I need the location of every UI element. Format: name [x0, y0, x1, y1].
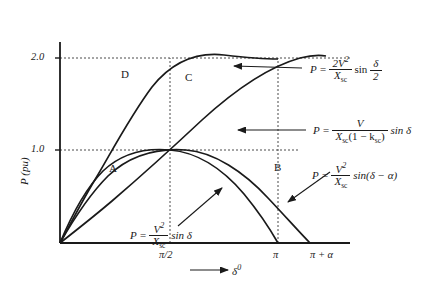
x-tick-label-pi-alpha: π + α — [310, 249, 333, 260]
y-tick-label-1: 1.0 — [31, 143, 44, 154]
formula-d-denominator: Xsc — [329, 70, 351, 84]
formula-a-fraction: V2 Xsc — [149, 222, 168, 250]
formula-a-num-sup: 2 — [160, 221, 164, 230]
chart-figure: P (pu) 2.0 1.0 π/2 π π + α δ0 A B C D P … — [0, 0, 430, 292]
formula-c-fraction: V Xsc(1 − ksc) — [332, 118, 387, 145]
formula-a-denominator: Xsc — [149, 236, 168, 250]
formula-c-denominator: Xsc(1 − ksc) — [332, 131, 387, 145]
formula-curve-c: P = V Xsc(1 − ksc) sin δ — [313, 118, 411, 145]
formula-curve-b: P = V2 Xsc sin(δ − α) — [312, 162, 397, 190]
formula-c-eq: = — [322, 124, 329, 136]
formula-a-tail: sin δ — [171, 229, 192, 241]
curve-c — [60, 55, 326, 243]
y-tick-label-2: 2.0 — [31, 51, 44, 62]
formula-c-den-rest: (1 − k — [348, 130, 374, 142]
formula-a-lhs: P — [130, 229, 137, 241]
formula-c-lhs: P — [313, 124, 320, 136]
grid-guides — [60, 58, 350, 243]
formula-d-eq: = — [319, 63, 326, 75]
formula-d-arg-fraction: δ 2 — [370, 58, 382, 82]
formula-b-denominator: Xsc — [331, 176, 350, 190]
formula-b-num-sup: 2 — [342, 161, 346, 170]
curve-d — [60, 54, 278, 243]
formula-b-lhs: P — [312, 169, 319, 181]
formula-a-numerator: V2 — [149, 222, 168, 236]
formula-b-tail: sin(δ − α) — [353, 169, 397, 181]
x-axis-title: δ0 — [232, 263, 241, 277]
formula-b-eq: = — [321, 169, 328, 181]
formula-b-fraction: V2 Xsc — [331, 162, 350, 190]
curve-label-b: B — [274, 161, 281, 173]
formula-d-den-text: X — [334, 69, 341, 81]
formula-d-lhs: P — [310, 63, 317, 75]
formula-b-den-sub: sc — [341, 181, 347, 190]
formula-curve-d: P = 2V2 Xsc sin δ 2 — [310, 56, 382, 84]
formula-d-num-text: 2V — [332, 57, 344, 69]
formula-b-numerator: V2 — [331, 162, 350, 176]
arrow-to-curve-a — [178, 188, 222, 226]
curve-label-a: A — [109, 162, 117, 174]
x-axis-title-superscript: 0 — [237, 263, 241, 272]
formula-d-arg-den: 2 — [370, 71, 382, 83]
chart-canvas — [0, 0, 430, 292]
formula-c-den-close: ) — [381, 130, 385, 142]
formula-a-eq: = — [139, 229, 146, 241]
curve-label-c: C — [185, 71, 192, 83]
y-axis-title: P (pu) — [18, 157, 30, 185]
arrow-to-curve-d — [234, 66, 302, 68]
curve-label-d: D — [121, 68, 129, 80]
formula-curve-a: P = V2 Xsc sin δ — [130, 222, 192, 250]
formula-d-numerator: 2V2 — [329, 56, 351, 70]
axis-lines — [60, 42, 350, 243]
formula-c-tail: sin δ — [391, 124, 412, 136]
x-tick-label-pi: π — [273, 249, 278, 260]
formula-d-fraction: 2V2 Xsc — [329, 56, 351, 84]
formula-d-fn: sin — [354, 63, 367, 75]
formula-d-num-sup: 2 — [345, 55, 349, 64]
formula-a-den-sub: sc — [159, 241, 165, 250]
formula-d-den-sub: sc — [341, 75, 347, 84]
x-tick-label-half-pi: π/2 — [159, 249, 172, 260]
formula-d-arg-num: δ — [370, 58, 382, 71]
